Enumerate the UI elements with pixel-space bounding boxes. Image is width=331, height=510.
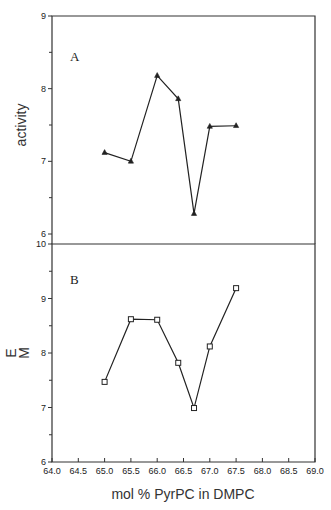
panel-a: 6789 A activity [13, 11, 315, 244]
y-tick-label: 9 [41, 294, 46, 304]
panel-a-y-axis: 6789 [41, 11, 52, 239]
panel-b-frame [52, 244, 315, 462]
panel-a-frame [52, 16, 315, 244]
y-tick-label: 10 [36, 239, 46, 249]
chart-svg: 6789 A activity 678910 64.064.565.065.56… [0, 0, 331, 510]
y-tick-label: 7 [41, 156, 46, 166]
x-tick-label: 68.0 [254, 466, 272, 476]
y-tick-label: 7 [41, 403, 46, 413]
x-axis: 64.064.565.065.566.066.567.067.568.068.5… [43, 458, 324, 476]
panel-a-series-line [105, 76, 237, 214]
x-tick-label: 65.5 [122, 466, 140, 476]
y-tick-label: 8 [41, 84, 46, 94]
panel-b-y-axis-title-line2: M [16, 347, 32, 359]
panel-a-markers [102, 73, 239, 216]
panel-a-label: A [70, 49, 80, 64]
data-point-square [207, 344, 212, 349]
x-tick-label: 69.0 [306, 466, 324, 476]
x-tick-label: 64.0 [43, 466, 61, 476]
panel-b-y-axis-title: E M [3, 347, 32, 359]
panel-b-markers [102, 286, 239, 411]
x-tick-label: 67.5 [227, 466, 245, 476]
x-tick-label: 67.0 [201, 466, 219, 476]
panel-b: 678910 64.064.565.065.566.066.567.067.56… [3, 239, 324, 476]
panel-b-y-axis: 678910 [36, 239, 52, 467]
data-point-square [102, 379, 107, 384]
figure: 6789 A activity 678910 64.064.565.065.56… [0, 0, 331, 510]
y-tick-label: 6 [41, 229, 46, 239]
data-point-triangle [155, 73, 160, 78]
y-tick-label: 8 [41, 348, 46, 358]
x-tick-label: 64.5 [70, 466, 88, 476]
y-tick-label: 9 [41, 11, 46, 21]
x-axis-title: mol % PyrPC in DMPC [111, 486, 254, 502]
data-point-square [155, 317, 160, 322]
x-tick-label: 66.5 [175, 466, 193, 476]
data-point-square [192, 406, 197, 411]
x-tick-label: 68.5 [280, 466, 298, 476]
data-point-triangle [102, 150, 107, 155]
panel-b-series-line [105, 288, 237, 408]
data-point-triangle [234, 123, 239, 128]
x-tick-label: 66.0 [148, 466, 166, 476]
data-point-square [234, 286, 239, 291]
x-tick-label: 65.0 [96, 466, 114, 476]
data-point-square [176, 360, 181, 365]
panel-a-y-axis-title: activity [13, 104, 29, 147]
data-point-square [128, 317, 133, 322]
data-point-triangle [191, 211, 196, 216]
panel-b-label: B [70, 272, 79, 287]
